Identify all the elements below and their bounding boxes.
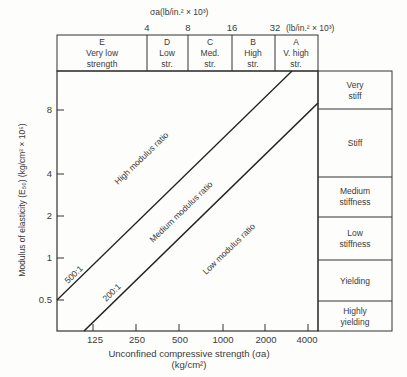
svg-text:8: 8 [47,104,52,115]
svg-text:1: 1 [47,252,52,263]
svg-text:stiffness: stiffness [339,239,370,249]
svg-text:str.: str. [204,59,215,69]
y-axis-ticks [57,110,64,300]
line-500-1 [57,71,292,300]
top-axis-ticks: 4 8 16 32 (lb/in.² × 10³) [144,22,334,33]
svg-text:Very low: Very low [86,48,119,58]
svg-text:B: B [250,37,256,47]
svg-text:str.: str. [161,59,172,69]
x-axis-ticks [93,324,308,331]
top-tick: 4 [144,22,149,33]
svg-text:250: 250 [129,334,145,345]
region-high-modulus: High modulus ratio [112,130,170,187]
svg-text:str.: str. [290,59,301,69]
svg-text:D: D [164,37,170,47]
top-axis-title: σa(lb/in.² × 10³) [150,7,209,17]
svg-text:Highly: Highly [343,306,367,316]
svg-text:E: E [99,37,105,47]
svg-text:500: 500 [172,334,188,345]
top-tick: 8 [185,22,190,33]
svg-text:Medium: Medium [340,186,370,196]
region-low-modulus: Low modulus ratio [200,221,257,276]
svg-text:Med.: Med. [201,48,220,58]
label-200-1: 200:1 [100,281,122,303]
modulus-ratio-chart: σa(lb/in.² × 10³) 4 8 16 32 (lb/in.² × 1… [0,0,407,377]
svg-text:str.: str. [247,59,258,69]
svg-text:strength: strength [87,59,118,69]
label-500-1: 500:1 [62,263,84,285]
svg-text:A: A [293,37,299,47]
svg-text:4000: 4000 [296,334,317,345]
svg-text:Yielding: Yielding [340,276,370,286]
svg-text:4: 4 [47,168,52,179]
svg-text:C: C [207,37,213,47]
svg-text:1000: 1000 [212,334,233,345]
region-medium-modulus: Medium modulus ratio [147,179,214,244]
svg-text:Very: Very [346,80,364,90]
svg-text:stiff: stiff [348,91,362,101]
x-axis-units: (kg/cm²) [172,359,207,370]
svg-text:Low: Low [159,48,175,58]
svg-text:2000: 2000 [255,334,276,345]
strength-class-labels: E Very low strength D Low str. C Med. st… [86,37,309,69]
svg-text:Low: Low [347,228,363,238]
y-axis-tick-labels: 8 4 2 1 0.5 [39,104,52,305]
svg-text:0.5: 0.5 [39,294,52,305]
svg-text:V. high: V. high [283,48,309,58]
top-axis-unit: (lb/in.² × 10³) [286,23,335,33]
stiffness-class-labels: Very stiff Stiff Medium stiffness Low st… [339,80,370,327]
top-tick: 32 [270,22,281,33]
y-axis-title: Modulus of elasticity (E₅₀) (kg/cm² × 10… [17,123,27,277]
top-tick: 16 [227,22,238,33]
svg-text:stiffness: stiffness [339,197,370,207]
svg-text:2: 2 [47,210,52,221]
svg-text:High: High [244,48,262,58]
line-200-1 [84,103,318,331]
x-axis-tick-labels: 125 250 500 1000 2000 4000 [87,334,318,345]
x-axis-title: Unconfined compressive strength (σa) [108,348,269,359]
svg-text:yielding: yielding [341,317,370,327]
svg-text:125: 125 [87,334,103,345]
svg-text:Stiff: Stiff [348,138,363,148]
